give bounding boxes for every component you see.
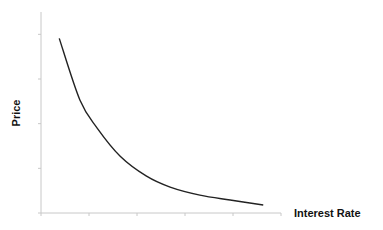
y-axis-label: Price [10, 100, 22, 127]
axes [38, 12, 281, 216]
x-axis-label: Interest Rate [294, 207, 361, 219]
chart: Price Interest Rate [0, 0, 383, 230]
price-curve [59, 38, 263, 205]
